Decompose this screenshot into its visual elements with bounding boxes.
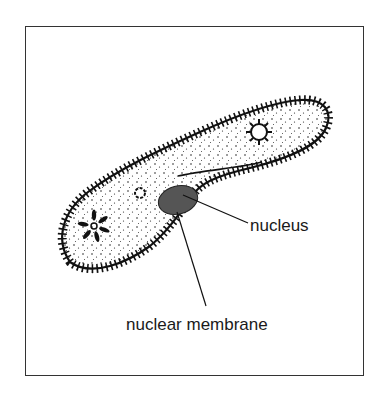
label-nuclear-membrane: nuclear membrane [126, 316, 268, 333]
cell-body [62, 100, 328, 269]
paramecium-illustration [0, 0, 387, 400]
food-vacuole-icon [135, 188, 145, 198]
membrane-leader-line [177, 212, 206, 306]
label-nucleus: nucleus [250, 217, 309, 234]
nucleus-leader-line [183, 195, 248, 223]
